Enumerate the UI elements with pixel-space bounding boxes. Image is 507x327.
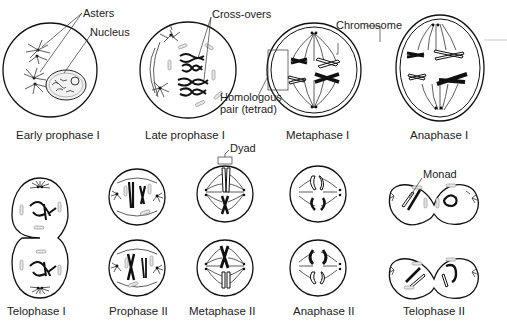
nucleus-icon	[46, 70, 86, 100]
cross-overs-label: Cross-overs	[212, 8, 272, 20]
homologous-label-line2: pair (tetrad)	[220, 103, 277, 115]
nucleus-label: Nucleus	[90, 26, 130, 38]
caption-telophase-2: Telophase II	[403, 305, 465, 317]
metaphase-2-cells: Dyad Metaphase II	[189, 142, 256, 317]
caption-metaphase-1: Metaphase I	[286, 129, 349, 141]
telophase-2-cells: Monad Telophase II	[389, 168, 478, 317]
aster-lower-icon	[24, 68, 47, 94]
anaphase-1-cell: Anaphase I	[396, 15, 507, 141]
metaphase-1-cell: Chromosome Homologous pair (tetrad) Meta…	[220, 19, 402, 141]
dyad-label: Dyad	[230, 142, 256, 154]
chromosome-label: Chromosome	[336, 19, 402, 31]
anaphase-2-cells: Anaphase II	[290, 166, 354, 317]
meiosis-diagram: Asters Nucleus Early prophase I Cross-ov…	[0, 0, 507, 327]
caption-metaphase-2: Metaphase II	[189, 305, 255, 317]
asters-label: Asters	[83, 7, 115, 19]
caption-prophase-2: Prophase II	[109, 305, 168, 317]
caption-anaphase-1: Anaphase I	[410, 129, 468, 141]
telophase-1-cell: Telophase I	[7, 178, 68, 317]
homologous-label-line1: Homologous	[220, 91, 282, 103]
caption-anaphase-2: Anaphase II	[293, 305, 354, 317]
late-prophase-1-cell: Cross-overs Late prophase I	[140, 8, 272, 141]
caption-telophase-1: Telophase I	[7, 305, 66, 317]
monad-label: Monad	[423, 168, 457, 180]
early-prophase-1-cell: Asters Nucleus Early prophase I	[3, 7, 130, 141]
caption-late-prophase-1: Late prophase I	[145, 129, 225, 141]
prophase-2-cells: Prophase II	[109, 169, 168, 317]
caption-early-prophase-1: Early prophase I	[16, 129, 100, 141]
tetrad-icon	[178, 54, 208, 96]
dyad-bracket	[218, 157, 232, 164]
